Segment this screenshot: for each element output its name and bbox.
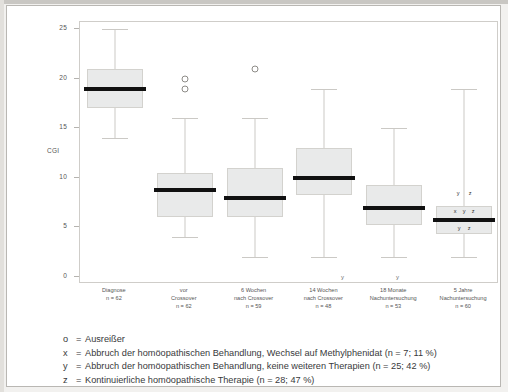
outlier-point [181, 75, 188, 82]
footnote-text: Abbruch der homöopathischen Behandlung, … [85, 360, 493, 374]
y-axis-title: CGI [47, 147, 59, 154]
box-iqr [296, 148, 352, 195]
x-category-line: n = 60 [420, 302, 506, 310]
marker-inbox-y: y [463, 209, 466, 215]
x-category-line: 5 Jahre [420, 286, 506, 294]
x-category-line: Nachuntersuchung [420, 294, 506, 302]
footnote-equals: = [76, 374, 85, 388]
scanned-page: 0510152025 CGI yzxyzyzyy Diagnosen = 62v… [0, 0, 508, 392]
scan-edge-top [0, 0, 508, 4]
whisker-upper [254, 118, 255, 168]
whisker-lower [394, 225, 395, 257]
footnote-legend: o=Ausreißerx=Abbruch der homöopathischen… [63, 333, 493, 387]
whisker-cap-lower [451, 257, 477, 258]
whisker-cap-lower [381, 257, 407, 258]
whisker-upper [394, 128, 395, 185]
boxplot-item [290, 22, 360, 284]
marker-inbox-z: z [472, 209, 475, 215]
median-line [433, 218, 495, 222]
whisker-cap-upper [381, 128, 407, 129]
y-tick-label: 0 [45, 272, 67, 279]
footnote-key: y [63, 360, 76, 374]
median-line [363, 206, 425, 210]
marker-axis-0: y [340, 274, 345, 280]
whisker-cap-lower [311, 257, 337, 258]
boxplot-item [220, 22, 290, 284]
footnote-equals: = [76, 360, 85, 374]
box-iqr [157, 173, 213, 218]
whisker-upper [184, 118, 185, 173]
footnote-row: z=Kontinuierliche homöopathische Therapi… [63, 374, 493, 388]
figure-frame: 0510152025 CGI yzxyzyzyy Diagnosen = 62v… [6, 5, 501, 387]
whisker-cap-upper [242, 118, 268, 119]
median-line [154, 188, 216, 192]
boxplot-item [359, 22, 429, 284]
whisker-upper [114, 29, 115, 69]
whisker-cap-upper [102, 29, 128, 30]
footnote-equals: = [76, 347, 85, 361]
whisker-cap-lower [172, 237, 198, 238]
footnote-row: o=Ausreißer [63, 333, 493, 347]
marker-inbox-x: x [454, 209, 457, 215]
footnote-key: x [63, 347, 76, 361]
whisker-lower [254, 217, 255, 257]
footnote-key: o [63, 333, 76, 347]
scan-edge-left [0, 0, 4, 392]
whisker-cap-upper [451, 89, 477, 90]
whisker-lower [114, 108, 115, 138]
outlier-point [181, 85, 188, 92]
median-line [293, 176, 355, 180]
y-tick-label: 20 [45, 74, 67, 81]
outlier-point [251, 65, 258, 72]
median-line [84, 87, 146, 91]
plot-area: yzxyzyzyy [79, 21, 498, 283]
box-iqr [227, 168, 283, 218]
footnote-text: Ausreißer [85, 333, 493, 347]
whisker-cap-upper [311, 89, 337, 90]
whisker-lower [464, 234, 465, 257]
boxplot-item [150, 22, 220, 284]
footnote-equals: = [76, 333, 85, 347]
whisker-lower [324, 195, 325, 257]
marker-axis-1: y [395, 274, 400, 280]
x-category-label: 5 JahreNachuntersuchungn = 60 [420, 286, 506, 310]
y-tick-label: 25 [45, 24, 67, 31]
whisker-cap-lower [102, 138, 128, 139]
median-line [224, 196, 286, 200]
footnote-row: x=Abbruch der homöopathischen Behandlung… [63, 347, 493, 361]
y-tick-label: 15 [45, 123, 67, 130]
whisker-cap-upper [172, 118, 198, 119]
marker-lower-z: z [468, 227, 471, 233]
y-tick-label: 10 [45, 173, 67, 180]
y-tick-label: 5 [45, 222, 67, 229]
marker-above-z: z [469, 191, 472, 197]
footnote-key: z [63, 374, 76, 388]
whisker-upper [324, 89, 325, 149]
marker-above-y: y [457, 191, 460, 197]
boxplot-item [80, 22, 150, 284]
boxplot-item [429, 22, 499, 284]
footnote-row: y=Abbruch der homöopathischen Behandlung… [63, 360, 493, 374]
whisker-lower [184, 217, 185, 237]
whisker-upper [464, 89, 465, 206]
footnote-text: Abbruch der homöopathischen Behandlung, … [85, 347, 493, 361]
footnote-text: Kontinuierliche homöopathische Therapie … [85, 374, 493, 388]
whisker-cap-lower [242, 257, 268, 258]
marker-lower-y: y [458, 227, 461, 233]
